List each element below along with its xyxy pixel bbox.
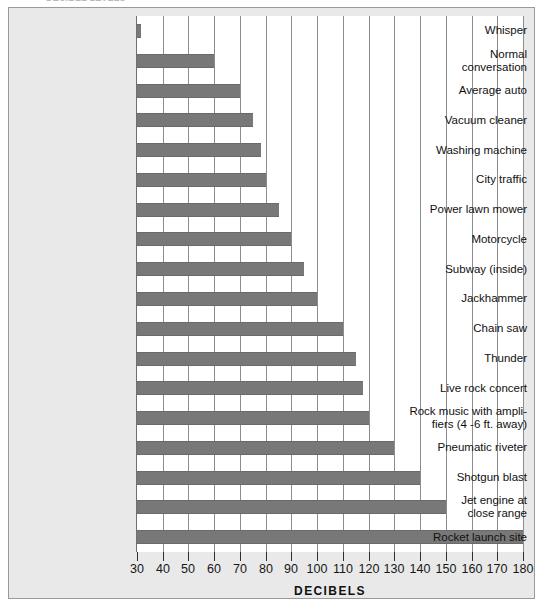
category-label: Thunder xyxy=(408,352,534,365)
category-label: Power lawn mower xyxy=(408,203,534,216)
category-label: Jackhammer xyxy=(408,292,534,305)
bar xyxy=(137,143,261,157)
x-tick-140 xyxy=(420,552,421,561)
category-label: Chain saw xyxy=(408,322,534,335)
cropped-caption-text: DECIBEL LEVELS xyxy=(46,0,126,3)
scan-artifact-strip: DECIBEL LEVELS xyxy=(0,0,540,7)
category-label: Rocket launch site xyxy=(408,531,534,544)
category-label: Motorcycle xyxy=(408,233,534,246)
category-label: Whisper xyxy=(408,24,534,37)
category-label: Subway (inside) xyxy=(408,263,534,276)
x-tick-90 xyxy=(291,552,292,561)
category-label: Vacuum cleaner xyxy=(408,114,534,127)
bar xyxy=(137,411,369,425)
category-label: Washing machine xyxy=(408,144,534,157)
bar xyxy=(137,173,266,187)
bar xyxy=(137,292,317,306)
x-tick-label: 180 xyxy=(503,562,540,576)
bar xyxy=(137,113,253,127)
x-tick-160 xyxy=(472,552,473,561)
x-tick-60 xyxy=(214,552,215,561)
decibel-bar-chart-figure: DECIBEL LEVELS WhisperNormal conversatio… xyxy=(0,0,540,606)
x-tick-100 xyxy=(317,552,318,561)
bar xyxy=(137,232,291,246)
x-tick-70 xyxy=(240,552,241,561)
category-label: Live rock concert xyxy=(408,382,534,395)
x-axis-title: DECIBELS xyxy=(136,584,524,598)
category-label: Jet engine at close range xyxy=(408,494,534,520)
bar xyxy=(137,441,394,455)
bar xyxy=(137,471,420,485)
x-tick-50 xyxy=(188,552,189,561)
category-label: Pneumatic riveter xyxy=(408,441,534,454)
bar xyxy=(137,322,343,336)
x-tick-40 xyxy=(163,552,164,561)
bar xyxy=(137,203,279,217)
x-tick-120 xyxy=(369,552,370,561)
x-tick-30 xyxy=(137,552,138,561)
bar xyxy=(137,24,141,38)
bar xyxy=(137,500,446,514)
x-tick-110 xyxy=(343,552,344,561)
x-tick-180 xyxy=(523,552,524,561)
category-label: City traffic xyxy=(408,173,534,186)
x-tick-80 xyxy=(266,552,267,561)
category-label: Normal conversation xyxy=(408,48,534,74)
category-label: Rock music with ampli- fiers (4 -6 ft. a… xyxy=(408,405,534,431)
bar xyxy=(137,381,363,395)
bar xyxy=(137,262,304,276)
category-label: Average auto xyxy=(408,84,534,97)
category-label: Shotgun blast xyxy=(408,471,534,484)
bar xyxy=(137,54,214,68)
bar xyxy=(137,352,356,366)
x-tick-150 xyxy=(446,552,447,561)
x-tick-170 xyxy=(497,552,498,561)
x-tick-130 xyxy=(394,552,395,561)
bar xyxy=(137,84,240,98)
x-axis: 3040506070809010011012013014015016017018… xyxy=(136,552,524,564)
chart-panel: WhisperNormal conversationAverage autoVa… xyxy=(8,7,535,599)
